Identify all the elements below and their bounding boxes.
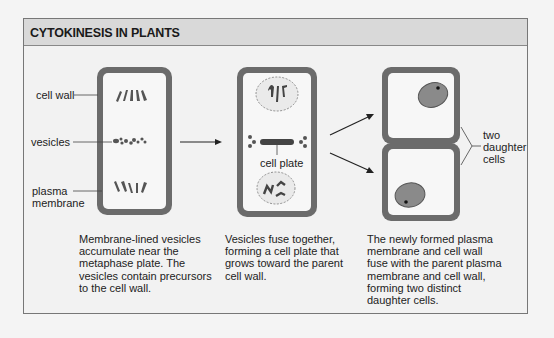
daughter-cells-bracket [461,127,481,165]
label-two-daughter-cells-1: two [483,129,500,141]
label-two-daughter-cells-3: cells [483,153,505,165]
caption-line: metaphase plate. The [79,257,212,269]
arrows-diverging-icon [330,114,374,173]
caption-line: cell wall. [225,270,343,282]
caption-line: membrane and cell wall, [367,270,502,282]
caption-line: membrane and cell wall [367,245,502,257]
daughter-cell-top [382,67,460,144]
label-two-daughter-cells-2: daughter [483,141,526,153]
caption-step-3: The newly formed plasma membrane and cel… [367,233,502,306]
caption-line: daughter cells. [367,294,502,306]
label-cell-plate: cell plate [260,157,303,169]
caption-line: Vesicles fuse together, [225,233,343,245]
label-plasma-membrane-2: membrane [32,197,85,209]
caption-line: Membrane-lined vesicles [79,233,212,245]
cell-1-metaphase [97,67,172,215]
caption-line: to the cell wall. [79,282,212,294]
arrow-right-icon [180,139,222,145]
caption-line: forming two distinct [367,282,502,294]
label-cell-wall: cell wall [36,89,75,101]
cell-2-cell-plate [237,67,317,217]
caption-line: grows toward the parent [225,257,343,269]
caption-step-1: Membrane-lined vesicles accumulate near … [79,233,212,294]
label-plasma-membrane-1: plasma [32,185,67,197]
caption-line: accumulate near the [79,245,212,257]
caption-line: forming a cell plate that [225,245,343,257]
caption-line: fuse with the parent plasma [367,257,502,269]
caption-line: The newly formed plasma [367,233,502,245]
label-vesicles: vesicles [31,136,70,148]
daughter-cell-bottom [382,143,460,221]
caption-line: vesicles contain precursors [79,270,212,282]
caption-step-2: Vesicles fuse together, forming a cell p… [225,233,343,282]
